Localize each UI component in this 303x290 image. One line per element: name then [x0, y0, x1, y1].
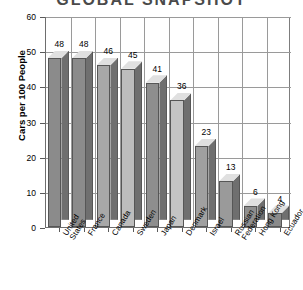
- bar[interactable]: [97, 58, 118, 227]
- bar-value-label: 41: [147, 64, 168, 74]
- bar-value-label: 6: [245, 187, 266, 197]
- bar-side-face: [86, 51, 94, 220]
- y-tick-label: 50: [0, 47, 36, 57]
- chart-title: GLOBAL SNAPSHOT: [0, 0, 303, 9]
- bar-value-label: 48: [49, 39, 70, 49]
- x-tick-mark: [182, 228, 183, 232]
- x-tick-mark: [108, 228, 109, 232]
- x-tick-mark: [157, 228, 158, 232]
- y-tick-label: 10: [0, 188, 36, 198]
- bar-front-face: [121, 69, 135, 227]
- bar[interactable]: [146, 75, 167, 227]
- bar-side-face: [208, 139, 216, 220]
- x-tick-label: Hong Kong: [258, 233, 265, 237]
- bar[interactable]: [72, 51, 93, 227]
- bar-front-face: [146, 83, 160, 227]
- x-tick-mark: [255, 228, 256, 232]
- gridline-vertical: [242, 17, 243, 228]
- bar-value-label: 13: [220, 162, 241, 172]
- bar-value-label: 36: [171, 81, 192, 91]
- x-tick-label: Israel: [209, 233, 216, 237]
- bar-value-label: 48: [73, 39, 94, 49]
- x-tick-mark: [231, 228, 232, 232]
- y-tick-label: 60: [0, 12, 36, 22]
- bar-front-face: [97, 65, 111, 227]
- x-tick-mark: [84, 228, 85, 232]
- x-tick-label: Denmark: [185, 233, 192, 237]
- y-tick-label: 0: [0, 223, 36, 233]
- bar-side-face: [184, 93, 192, 220]
- gridline-vertical: [267, 17, 268, 228]
- x-tick-label: Japan: [160, 233, 167, 237]
- x-tick-mark: [280, 228, 281, 232]
- x-tick-label: Sweden: [136, 233, 143, 237]
- bar-side-face: [61, 51, 69, 220]
- bar-chart: GLOBAL SNAPSHOT Cars per 100 People 0102…: [0, 0, 303, 290]
- plot-area: 484846454136231364: [45, 17, 290, 228]
- bar-value-label: 23: [196, 127, 217, 137]
- y-tick-label: 20: [0, 153, 36, 163]
- y-tick-mark: [40, 228, 45, 229]
- bar-value-label: 45: [122, 50, 143, 60]
- bar-side-face: [135, 61, 143, 219]
- x-tick-label: UnitedStates: [62, 233, 76, 242]
- bar-side-face: [110, 58, 118, 220]
- x-tick-mark: [206, 228, 207, 232]
- bar[interactable]: [48, 51, 69, 227]
- bar-side-face: [159, 75, 167, 219]
- x-tick-mark: [59, 228, 60, 232]
- bar-front-face: [48, 58, 62, 227]
- x-tick-label: RussianFederation: [234, 233, 248, 242]
- bar-front-face: [72, 58, 86, 227]
- bar-side-face: [233, 174, 241, 220]
- bar[interactable]: [121, 61, 142, 227]
- bar-value-label: 46: [98, 46, 119, 56]
- x-tick-label: France: [87, 233, 94, 237]
- bar-front-face: [170, 100, 184, 227]
- x-tick-label: Ecuador: [283, 233, 290, 237]
- y-tick-label: 30: [0, 118, 36, 128]
- x-tick-label: Canada: [111, 233, 118, 237]
- x-tick-mark: [133, 228, 134, 232]
- bar[interactable]: [170, 93, 191, 227]
- y-tick-label: 40: [0, 82, 36, 92]
